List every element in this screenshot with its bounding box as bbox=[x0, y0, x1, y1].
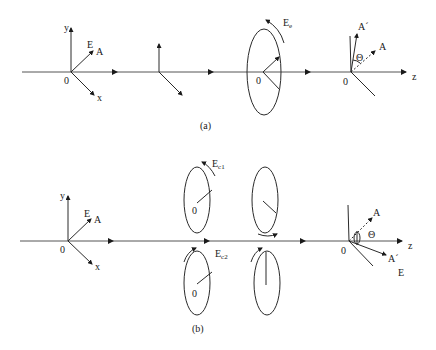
origin-label: 0 bbox=[64, 75, 69, 86]
panel-a: z y x E A 0 Ee 0 bbox=[22, 17, 417, 132]
x-label: x bbox=[95, 261, 100, 272]
propagation-arrow-icon bbox=[108, 238, 114, 244]
z-axis-label: z bbox=[412, 71, 417, 82]
angle-label: Θ bbox=[368, 229, 375, 240]
field-label: Ec1 bbox=[212, 158, 225, 171]
rotation-arrow-icon bbox=[258, 234, 277, 236]
caption-b: (b) bbox=[192, 323, 204, 335]
diagonal-component-arrow-icon bbox=[159, 72, 182, 95]
propagation-arrow-icon bbox=[112, 69, 118, 75]
vertical-reference-line bbox=[350, 36, 351, 72]
circular-component-ellipse-top bbox=[184, 167, 210, 233]
circular-component-ellipse-bottom bbox=[184, 251, 210, 315]
vertical-reference-line bbox=[348, 205, 349, 241]
rotated-analyzer-label: A´ bbox=[358, 21, 369, 32]
x-axis-arrow-icon bbox=[71, 72, 94, 95]
field-label: Ee bbox=[283, 17, 292, 30]
origin-label: 0 bbox=[192, 205, 197, 216]
rotating-field-arrow-icon bbox=[263, 57, 279, 72]
reference-line bbox=[263, 72, 280, 90]
source-frame-b: y x E A 0 bbox=[60, 190, 102, 272]
origin-label: 0 bbox=[256, 75, 261, 86]
field-label: Ec2 bbox=[215, 248, 228, 261]
y-label: y bbox=[64, 22, 69, 33]
field-vector-arrow-icon bbox=[68, 219, 91, 241]
x-label: x bbox=[97, 92, 102, 103]
angle-label: Θ bbox=[356, 52, 363, 63]
x-axis-arrow-icon bbox=[68, 241, 92, 264]
propagation-arrow-icon bbox=[204, 238, 210, 244]
original-analyzer-label: A bbox=[379, 41, 387, 52]
propagation-arrow-icon bbox=[208, 69, 214, 75]
panel-b: z y x E A 0 Ec1 0 Ec2 0 bbox=[20, 158, 413, 335]
field-vector-arrow-icon bbox=[71, 51, 93, 72]
field-label: E bbox=[84, 208, 90, 219]
z-axis-label: z bbox=[408, 240, 413, 251]
rotated-analyzer-label: A´ bbox=[388, 253, 399, 264]
caption-a: (a) bbox=[200, 120, 211, 132]
analyzer-frame-a: A´ A Θ 0 bbox=[343, 21, 387, 96]
polarizer-label: A bbox=[96, 46, 104, 57]
components-a bbox=[159, 44, 182, 95]
origin-label: 0 bbox=[343, 76, 348, 87]
field-line bbox=[349, 241, 373, 266]
original-analyzer-label: A bbox=[373, 207, 381, 218]
polarizer-label: A bbox=[94, 214, 102, 225]
origin-label: 0 bbox=[192, 288, 197, 299]
rotation-arrow-icon bbox=[184, 248, 196, 262]
component-vector-line bbox=[263, 201, 276, 213]
rotated-analyzer-arrow-icon bbox=[349, 241, 386, 255]
diagonal-reference-line bbox=[351, 72, 375, 96]
elliptical-field-a: Ee 0 bbox=[247, 17, 292, 115]
origin-label: 0 bbox=[60, 244, 65, 255]
field-label: E bbox=[398, 267, 404, 278]
propagation-arrow-icon bbox=[300, 238, 306, 244]
circular-components-left: Ec1 0 Ec2 0 bbox=[184, 158, 228, 315]
propagation-arrow-icon bbox=[305, 69, 311, 75]
origin-label: 0 bbox=[341, 245, 346, 256]
circular-component-ellipse-top bbox=[252, 167, 278, 233]
circular-component-ellipse-bottom bbox=[254, 251, 280, 315]
y-label: y bbox=[60, 190, 65, 201]
polarization-diagram: z y x E A 0 Ee 0 bbox=[0, 0, 436, 350]
field-label: E bbox=[87, 39, 93, 50]
source-frame-a: y x E A 0 bbox=[64, 22, 104, 103]
